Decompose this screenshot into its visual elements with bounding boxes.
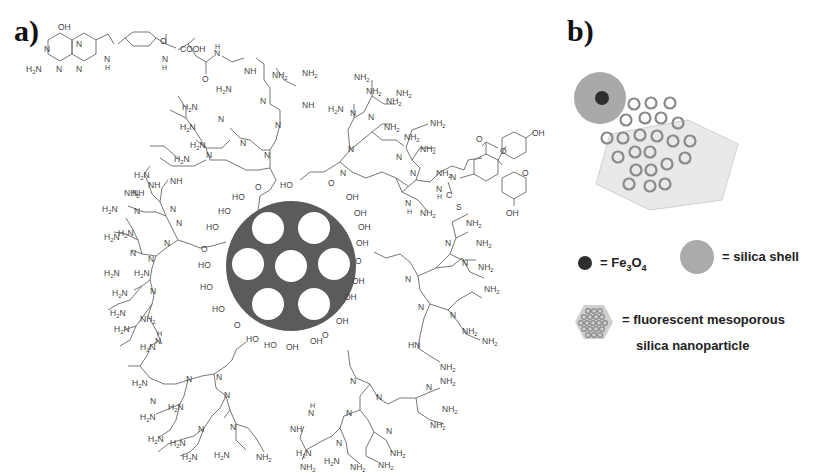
svg-text:NH2: NH2 [384,122,400,133]
svg-text:N: N [230,422,236,432]
svg-text:H2N: H2N [140,412,156,423]
svg-text:O: O [322,330,329,340]
svg-text:N: N [264,150,270,160]
svg-text:N: N [376,392,382,402]
svg-text:N: N [410,168,416,178]
svg-text:N: N [150,286,156,296]
svg-text:N: N [348,144,354,154]
svg-text:S: S [456,202,462,212]
svg-text:N: N [445,238,451,248]
svg-text:C: C [446,190,452,200]
svg-text:N: N [186,374,192,384]
svg-text:H2N: H2N [148,434,164,445]
svg-text:O: O [328,178,335,188]
svg-text:H: H [310,402,315,409]
svg-text:N: N [426,382,432,392]
svg-text:N: N [346,408,352,418]
svg-text:H2N: H2N [182,452,198,463]
svg-text:COOH: COOH [180,44,206,54]
svg-text:NH: NH [290,424,302,434]
svg-text:H2N: H2N [182,102,198,113]
svg-text:H: H [407,208,412,215]
svg-text:N: N [76,64,82,74]
svg-text:NH2: NH2 [442,404,458,415]
svg-text:H: H [162,64,167,71]
svg-text:HO: HO [200,282,213,292]
svg-text:HO: HO [264,340,277,350]
svg-text:N: N [386,426,392,436]
svg-text:H2N: H2N [26,64,42,75]
svg-text:NH2: NH2 [440,362,456,373]
svg-text:NH2: NH2 [404,132,420,143]
silica-shell-icon [680,240,714,274]
svg-text:NH2: NH2 [466,218,482,229]
legend-fe3o4-text: = Fe3O4 [600,255,647,273]
svg-text:O: O [476,134,483,144]
svg-text:HO: HO [218,206,231,216]
svg-text:NH2: NH2 [350,462,366,473]
svg-text:N: N [450,310,456,320]
svg-text:NH2: NH2 [390,448,406,459]
svg-text:H: H [215,43,220,50]
svg-text:NH2: NH2 [478,262,494,273]
svg-text:NH2: NH2 [300,462,316,473]
svg-text:N: N [130,248,136,258]
svg-text:NH2: NH2 [484,284,500,295]
svg-text:OH: OH [354,208,367,218]
svg-text:HO: HO [280,180,293,190]
svg-text:N: N [155,336,161,346]
panel-b-label: b) [567,14,594,48]
svg-text:NH2: NH2 [420,144,436,155]
svg-text:N: N [104,54,110,64]
svg-text:OH: OH [344,292,357,302]
svg-text:NH: NH [148,180,160,190]
svg-text:H2N: H2N [134,268,150,279]
mesoporous-hexagon-icon [574,302,614,342]
svg-text:H2N: H2N [180,122,196,133]
panel-b-schematic [570,60,770,240]
svg-text:N: N [336,438,342,448]
svg-text:N: N [150,396,156,406]
fe3o4-core [595,91,609,105]
legend-mesoporous-text-line1: = fluorescent mesoporous [622,312,785,327]
svg-text:NH2: NH2 [354,72,370,83]
svg-text:NH2: NH2 [440,376,456,387]
svg-text:OH: OH [358,222,371,232]
svg-text:N: N [134,206,140,216]
svg-text:N: N [76,39,82,49]
svg-text:N: N [260,96,266,106]
svg-text:N: N [450,172,456,182]
svg-text:H2N: H2N [110,308,126,319]
svg-text:NH2: NH2 [378,460,394,471]
svg-text:OH: OH [58,22,71,32]
svg-text:O: O [355,256,362,266]
svg-text:N: N [396,152,402,162]
svg-text:NH: NH [244,66,256,76]
svg-text:N: N [405,198,411,208]
svg-text:OH: OH [532,128,545,138]
svg-text:H2N: H2N [174,154,190,165]
svg-text:HO: HO [212,304,225,314]
fe3o4-dot-icon [578,256,592,270]
svg-text:O: O [522,168,529,178]
svg-text:N: N [170,204,176,214]
svg-text:NH2: NH2 [302,68,318,79]
svg-text:H: H [437,193,442,200]
svg-text:N: N [462,258,468,268]
svg-text:NH2: NH2 [462,326,478,337]
svg-text:O: O [255,182,262,192]
svg-text:NH2: NH2 [482,336,498,347]
svg-text:N: N [340,168,346,178]
svg-text:O: O [234,320,241,330]
svg-text:N: N [198,424,204,434]
legend-silica-shell-text: = silica shell [722,249,799,264]
svg-text:NH: NH [302,100,314,110]
svg-text:H2N: H2N [170,438,186,449]
svg-text:H2N: H2N [132,378,148,389]
svg-text:NH2: NH2 [420,208,436,219]
svg-text:OH: OH [310,336,323,346]
svg-text:N: N [148,254,154,264]
svg-text:N: N [164,238,170,248]
svg-text:NH2: NH2 [476,238,492,249]
svg-text:NH2: NH2 [430,420,446,431]
